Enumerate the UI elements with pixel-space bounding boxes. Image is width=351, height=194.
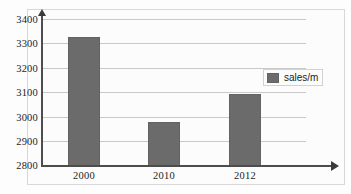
- ytick-label-3400: 3400: [16, 14, 38, 25]
- x-axis-line: [41, 165, 333, 167]
- chart-legend: sales/m: [263, 69, 323, 86]
- legend-label-sales: sales/m: [284, 72, 318, 83]
- xtick-label-2000: 2000: [73, 170, 95, 181]
- xtick-label-2012: 2012: [234, 170, 256, 181]
- bar-2012: [229, 94, 261, 166]
- ytick-label-3200: 3200: [16, 62, 38, 73]
- legend-swatch-sales: [267, 73, 279, 83]
- bar-2000: [68, 37, 100, 166]
- plot-area: [41, 19, 306, 166]
- y-axis-arrow-icon: [38, 9, 46, 16]
- gridline-3400: [41, 19, 306, 20]
- bar-2010: [148, 122, 180, 166]
- ytick-label-2800: 2800: [16, 160, 38, 171]
- xtick-label-2010: 2010: [153, 170, 175, 181]
- x-axis-arrow-icon: [331, 161, 339, 171]
- ytick-label-3300: 3300: [16, 38, 38, 49]
- y-axis-line: [41, 14, 43, 166]
- bar-chart: 3400 3300 3200 3100 3000 2900 2800 2000 …: [0, 0, 351, 194]
- ytick-label-2900: 2900: [16, 136, 38, 147]
- ytick-label-3000: 3000: [16, 111, 38, 122]
- ytick-label-3100: 3100: [16, 87, 38, 98]
- y-axis-labels: 3400 3300 3200 3100 3000 2900 2800: [0, 19, 38, 166]
